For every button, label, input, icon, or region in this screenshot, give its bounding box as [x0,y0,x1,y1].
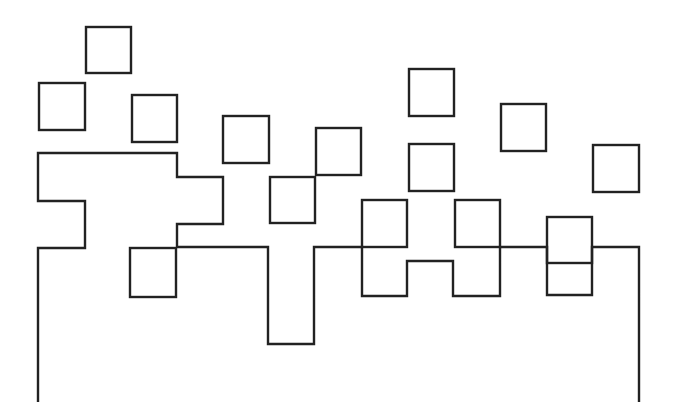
square-outline-14 [547,217,592,263]
diagram-canvas [0,0,676,402]
square-outline-6 [270,177,315,223]
square-outline-4 [223,116,269,163]
square-outline-5 [316,128,361,175]
square-outline-1 [86,27,131,73]
square-outline-2 [39,83,85,130]
square-outline-8 [501,104,546,151]
square-outline-11 [130,248,176,297]
stepped-outline-shape [38,153,639,402]
square-outline-10 [593,145,639,192]
square-outline-12 [362,200,407,247]
square-outline-9 [409,144,454,191]
line-drawing [0,0,676,402]
square-outline-7 [409,69,454,116]
square-outline-13 [455,200,500,247]
square-outline-3 [132,95,177,142]
squares-group [39,27,639,297]
